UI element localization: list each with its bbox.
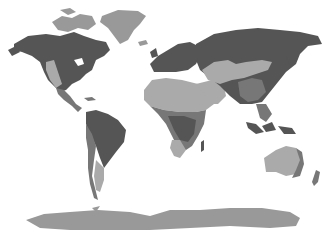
region-new-zealand [312, 170, 320, 186]
region-antarctica [26, 208, 300, 230]
region-south-america [86, 110, 126, 200]
region-greenland [100, 10, 146, 44]
region-southeast-asia [246, 122, 296, 134]
region-asia [196, 28, 322, 122]
region-australia [264, 146, 304, 178]
region-caribbean [84, 97, 96, 101]
region-arctic-canada [52, 8, 96, 32]
world-map [0, 0, 331, 238]
region-europe [150, 42, 200, 72]
region-iceland [138, 40, 148, 46]
